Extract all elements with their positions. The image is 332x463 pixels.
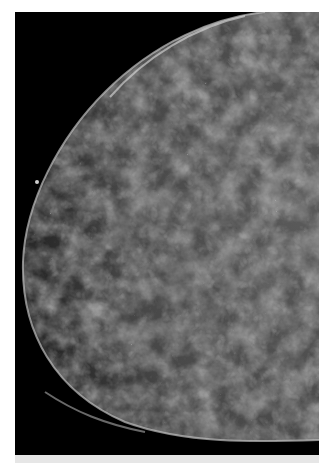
breast-tissue-graphic (15, 12, 319, 455)
bottom-strip (15, 455, 319, 463)
mammogram-image (15, 12, 319, 455)
